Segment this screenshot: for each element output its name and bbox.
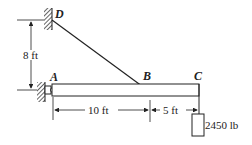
- beam-cable-diagram: D A B C 8 ft 10 ft 5 ft 2450 lb: [0, 0, 252, 145]
- label-b: B: [142, 69, 151, 83]
- load-label: 2450 lb: [205, 119, 239, 131]
- label-5ft: 5 ft: [163, 104, 178, 116]
- label-10ft: 10 ft: [88, 104, 108, 116]
- cable-db: [52, 20, 150, 92]
- label-d: D: [54, 7, 64, 21]
- label-c: C: [194, 69, 203, 83]
- label-8ft: 8 ft: [23, 49, 38, 61]
- beam-ac: [52, 84, 199, 96]
- wall-support-d: [44, 8, 52, 30]
- load-weight: [192, 114, 204, 136]
- label-a: A: [49, 70, 58, 84]
